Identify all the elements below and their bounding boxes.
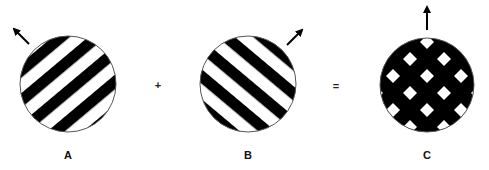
arrow-upper-left-icon	[14, 29, 29, 44]
grating-b	[200, 36, 296, 132]
panel-a: A	[14, 29, 116, 161]
plaid-diagram: A + B =	[0, 0, 489, 170]
label-b: B	[244, 149, 252, 161]
panel-b: B	[200, 30, 302, 161]
equals-operator: =	[333, 80, 339, 92]
panel-c: C	[369, 7, 485, 161]
grating-a	[20, 36, 116, 132]
label-c: C	[423, 149, 431, 161]
plus-operator: +	[155, 79, 161, 91]
arrow-upper-right-icon	[287, 30, 302, 45]
label-a: A	[64, 149, 72, 161]
plaid-c	[369, 35, 485, 136]
